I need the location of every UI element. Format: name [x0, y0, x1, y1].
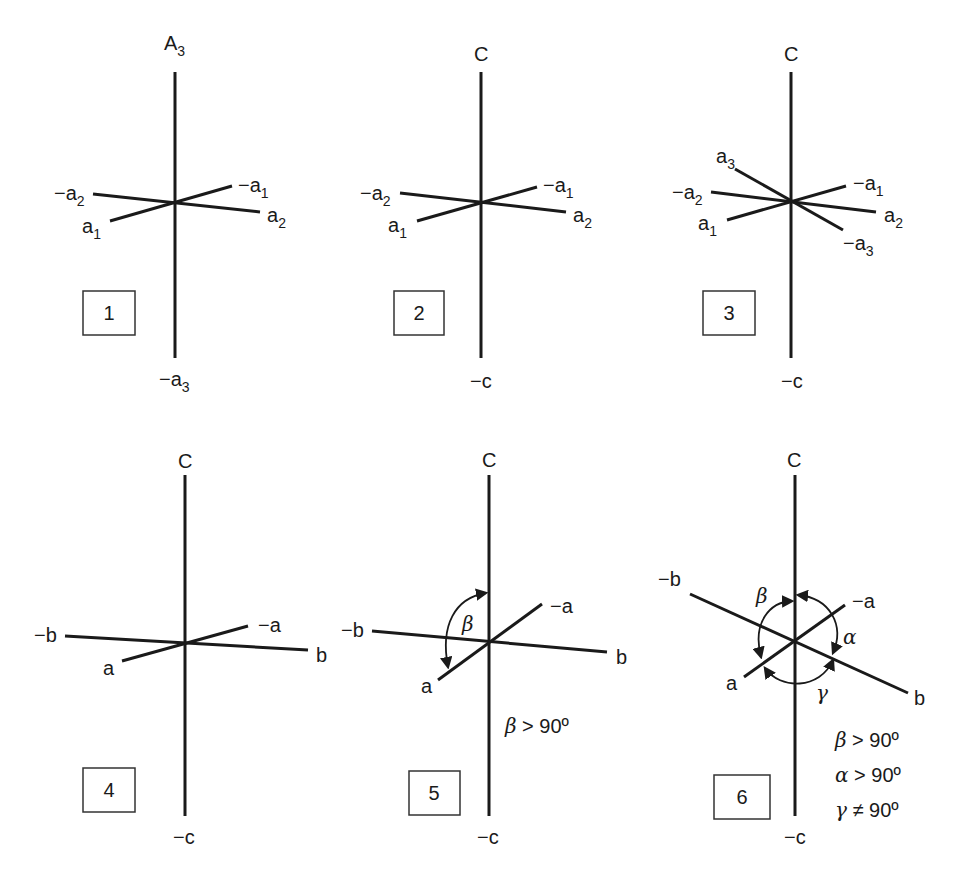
- label-right-upper: −a1: [543, 174, 574, 201]
- label-left-lower: a1: [698, 212, 717, 239]
- label-left: −b: [341, 619, 364, 641]
- label-back: −a: [852, 590, 876, 612]
- panel-1: A3 −a2 a1 −a1 a2 −a3 1: [54, 32, 286, 395]
- panel-number: 6: [736, 786, 747, 808]
- b-axis: [690, 594, 908, 693]
- label-alpha: α: [843, 625, 857, 649]
- label-front: a: [726, 672, 738, 694]
- label-right-upper: −a1: [238, 174, 269, 201]
- a1-axis: [727, 186, 846, 220]
- label-right-lower: a2: [267, 204, 286, 231]
- panel-number: 4: [103, 779, 114, 801]
- label-right-upper: −a1: [853, 172, 884, 199]
- panel-number: 3: [723, 302, 734, 324]
- label-top: C: [178, 450, 192, 472]
- label-gamma: γ: [816, 681, 828, 705]
- label-back: −a: [550, 595, 574, 617]
- label-top: C: [787, 449, 801, 471]
- label-right: b: [914, 687, 925, 709]
- label-front: a: [421, 675, 433, 697]
- label-beta: β: [461, 612, 474, 636]
- condition-gamma: γ ≠ 90º: [835, 798, 899, 822]
- label-bottom: −a3: [159, 368, 190, 395]
- label-top: C: [482, 449, 496, 471]
- label-beta: β: [755, 584, 768, 608]
- label-right: b: [316, 644, 327, 666]
- label-right: b: [616, 646, 627, 668]
- condition-beta: β > 90º: [834, 728, 900, 752]
- condition-alpha: α > 90º: [835, 763, 902, 787]
- a1-axis: [417, 187, 537, 221]
- label-lower-right: −a3: [843, 232, 874, 259]
- label-top: C: [474, 43, 488, 65]
- label-top: A3: [164, 32, 185, 59]
- label-front: a: [103, 657, 115, 679]
- label-left-lower: a1: [388, 214, 407, 241]
- label-left-upper: −a2: [360, 182, 391, 209]
- label-left-lower: a1: [82, 215, 101, 242]
- label-left-upper: −a2: [54, 182, 85, 209]
- label-bottom: −c: [173, 826, 195, 848]
- a3-axis: [735, 169, 843, 230]
- panel-6: β α γ C −b a −a b β > 90º α > 90º γ ≠ 90…: [658, 449, 925, 848]
- label-back: −a: [258, 614, 282, 636]
- label-right-mid: a2: [884, 204, 903, 231]
- label-right-lower: a2: [573, 204, 592, 231]
- crystal-axes-figure: A3 −a2 a1 −a1 a2 −a3 1 C −a2 a1 −a1 a2 −…: [0, 0, 963, 874]
- label-top: C: [784, 43, 798, 65]
- panel-4: C −b a −a b −c 4: [34, 450, 327, 848]
- label-left: −b: [658, 568, 681, 590]
- panel-number: 5: [428, 782, 439, 804]
- label-bottom: −c: [781, 370, 803, 392]
- label-bottom: −c: [784, 826, 806, 848]
- panel-2: C −a2 a1 −a1 a2 −c 2: [360, 43, 592, 392]
- label-bottom: −c: [470, 370, 492, 392]
- label-bottom: −c: [477, 826, 499, 848]
- panel-number: 2: [413, 302, 424, 324]
- label-left: −b: [34, 624, 57, 646]
- label-left-upper: −a2: [672, 181, 703, 208]
- label-upper-a3: a3: [716, 145, 735, 172]
- a1-axis: [110, 186, 232, 221]
- panel-number: 1: [103, 302, 114, 324]
- panel-3: C a3 −a2 a1 −a1 a2 −a3 −c 3: [672, 43, 903, 392]
- condition-beta: β > 90º: [504, 714, 570, 738]
- panel-5: β C −b a −a b β > 90º −c 5: [341, 449, 627, 848]
